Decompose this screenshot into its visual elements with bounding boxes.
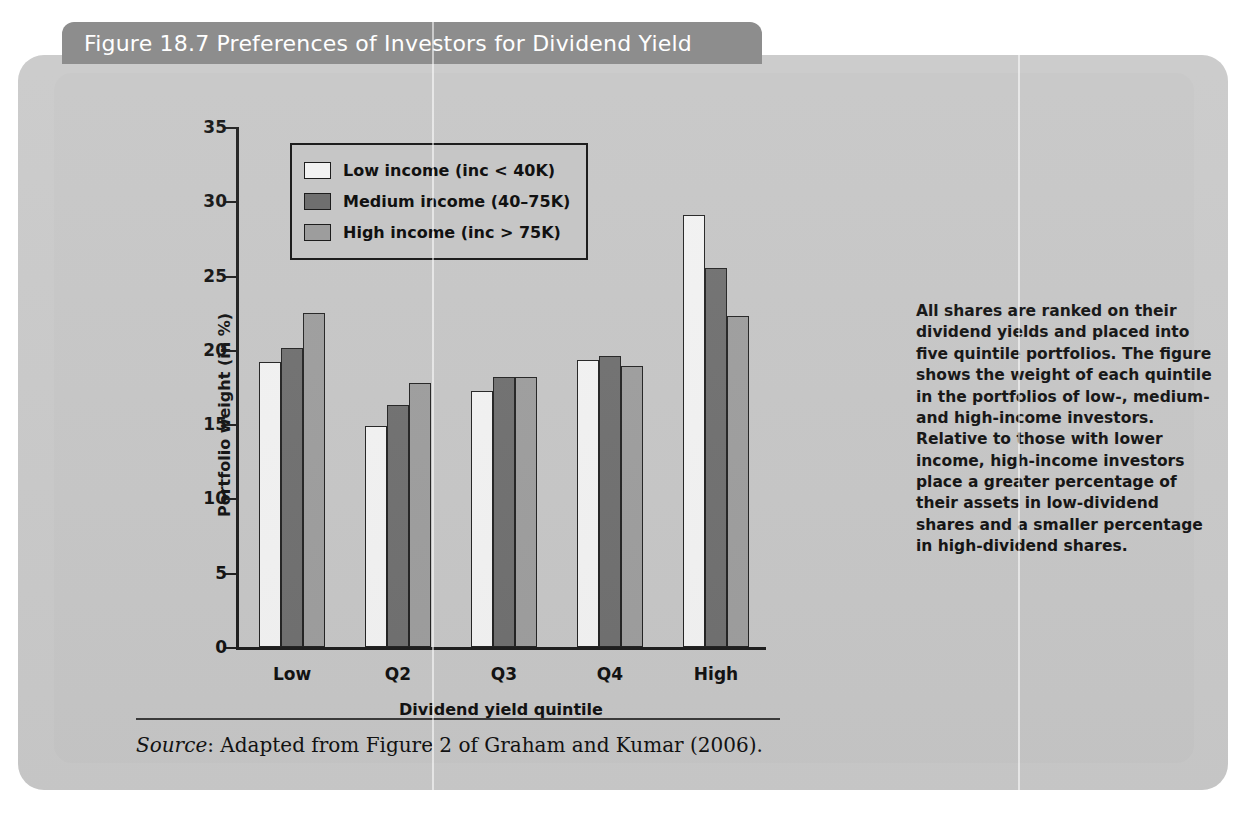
x-tick-label: Low xyxy=(273,664,311,684)
y-tick-label: 0 xyxy=(215,637,227,657)
figure-title: Figure 18.7 Preferences of Investors for… xyxy=(84,31,692,56)
figure-title-tab: Figure 18.7 Preferences of Investors for… xyxy=(62,22,762,64)
x-axis-label: Dividend yield quintile xyxy=(236,700,766,719)
y-tick-label: 25 xyxy=(203,266,227,286)
y-tick-label: 30 xyxy=(203,191,227,211)
bar xyxy=(577,360,599,647)
legend-label: Medium income (40–75K) xyxy=(343,192,570,211)
source-line: Source: Adapted from Figure 2 of Graham … xyxy=(136,733,763,757)
figure-caption: All shares are ranked on their dividend … xyxy=(916,301,1216,558)
x-tick-label: Q2 xyxy=(385,664,411,684)
bar xyxy=(493,377,515,647)
figure-card: Portfolio weight (in %) 05101520253035 L… xyxy=(18,55,1228,790)
y-tick-label: 10 xyxy=(203,488,227,508)
legend-item: Medium income (40–75K) xyxy=(304,186,570,217)
y-tick-label: 20 xyxy=(203,340,227,360)
bar xyxy=(471,391,493,647)
source-label: Source xyxy=(136,733,207,757)
bar xyxy=(387,405,409,647)
y-tick-label: 15 xyxy=(203,414,227,434)
legend-item: High income (inc > 75K) xyxy=(304,217,570,248)
bar xyxy=(281,348,303,647)
bar xyxy=(365,426,387,647)
chart-legend: Low income (inc < 40K)Medium income (40–… xyxy=(290,143,588,260)
bar-group xyxy=(663,127,769,647)
bar xyxy=(705,268,727,647)
bar-chart: Portfolio weight (in %) 05101520253035 L… xyxy=(114,105,844,725)
bar xyxy=(727,316,749,647)
x-tick-label: Q4 xyxy=(597,664,623,684)
bar xyxy=(259,362,281,647)
source-divider xyxy=(136,718,780,720)
bar xyxy=(621,366,643,647)
x-tick-label: High xyxy=(694,664,738,684)
source-text: : Adapted from Figure 2 of Graham and Ku… xyxy=(207,733,763,757)
legend-item: Low income (inc < 40K) xyxy=(304,155,570,186)
legend-label: Low income (inc < 40K) xyxy=(343,161,555,180)
bar xyxy=(409,383,431,647)
bar xyxy=(303,313,325,647)
legend-swatch xyxy=(304,162,331,179)
bar xyxy=(683,215,705,647)
y-tick-label: 5 xyxy=(215,563,227,583)
bar xyxy=(515,377,537,647)
y-tick-label: 35 xyxy=(203,117,227,137)
legend-swatch xyxy=(304,224,331,241)
x-tick-label: Q3 xyxy=(491,664,517,684)
bar xyxy=(599,356,621,647)
legend-swatch xyxy=(304,193,331,210)
legend-label: High income (inc > 75K) xyxy=(343,223,561,242)
figure-inner-panel: Portfolio weight (in %) 05101520253035 L… xyxy=(54,73,1194,763)
